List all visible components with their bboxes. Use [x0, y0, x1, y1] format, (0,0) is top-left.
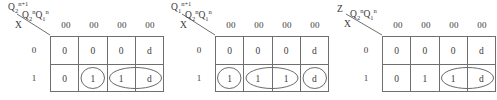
column-header-1: 00 — [80, 18, 108, 32]
kmap-cell-value: 1 — [256, 74, 261, 84]
row-header-1: 1 — [354, 64, 378, 92]
kmap-cell-value: 1 — [91, 74, 96, 84]
kmap-cell-value: 0 — [423, 46, 428, 56]
kmap-cell-r0c1: 0 — [79, 37, 107, 64]
kmap-cell-r1c0: 0 — [51, 65, 79, 92]
kmap-cell-value: d — [147, 74, 152, 84]
column-header-0: 00 — [384, 18, 412, 32]
kmap-cell-r0c0: 0 — [383, 37, 411, 64]
kmap-cell-value: 0 — [62, 46, 67, 56]
kmap-cell-r1c1: 1 — [244, 65, 272, 92]
column-header-3: 00 — [136, 18, 164, 32]
kmap-cell-value: 1 — [227, 74, 232, 84]
kmap-cell-r0c2: 0 — [273, 37, 301, 64]
kmap-cell-r0c3: d — [136, 37, 163, 64]
table-row: 000d — [51, 37, 163, 65]
table-row: 000d — [383, 37, 495, 65]
map-q1-next: Q1n+1Q2nQ1nX0000000001000d111d — [165, 0, 330, 100]
column-header-0: 00 — [52, 18, 80, 32]
kmap-state-vars: Q2nQ1n — [22, 11, 49, 21]
kmap-cell-value: d — [312, 46, 317, 56]
kmap-cell-r0c2: 0 — [440, 37, 468, 64]
row-header-0: 0 — [187, 36, 211, 64]
column-header-3: 00 — [301, 18, 329, 32]
karnaugh-map-figure: Q2n+1Q2nQ1nX0000000001000d011dQ1n+1Q2nQ1… — [0, 0, 497, 100]
row-header-column: 01 — [187, 36, 211, 92]
column-header-1: 00 — [245, 18, 273, 32]
kmap-cell-r0c3: d — [468, 37, 495, 64]
row-header-column: 01 — [22, 36, 46, 92]
table-row: 000d — [216, 37, 328, 65]
kmap-cell-r0c3: d — [301, 37, 328, 64]
kmap-grid: 000d011d — [50, 36, 164, 92]
row-header-1: 1 — [22, 64, 46, 92]
kmap-cell-value: 0 — [62, 74, 67, 84]
kmap-cell-r0c0: 0 — [51, 37, 79, 64]
kmap-cell-r1c1: 1 — [411, 65, 439, 92]
row-header-0: 0 — [354, 36, 378, 64]
kmap-cell-value: 1 — [423, 74, 428, 84]
state-vars-label: Q2nQ1n — [185, 10, 212, 20]
kmap-cell-value: d — [479, 74, 484, 84]
column-header-2: 00 — [273, 18, 301, 32]
kmap-input-var-label: X — [180, 21, 187, 31]
row-header-0: 0 — [22, 36, 46, 64]
table-row: 011d — [51, 65, 163, 92]
kmap-cell-value: 0 — [394, 74, 399, 84]
row-header-column: 01 — [354, 36, 378, 92]
kmap-cell-r1c0: 0 — [383, 65, 411, 92]
table-row: 011d — [383, 65, 495, 92]
kmap-cell-value: 0 — [119, 46, 124, 56]
kmap-cell-r0c2: 0 — [108, 37, 136, 64]
kmap-cell-r1c2: 1 — [108, 65, 136, 92]
kmap-cell-r0c1: 0 — [411, 37, 439, 64]
table-row: 111d — [216, 65, 328, 92]
kmap-grid: 000d011d — [382, 36, 496, 92]
column-header-2: 00 — [108, 18, 136, 32]
kmap-cell-r1c2: 1 — [440, 65, 468, 92]
kmap-cell-value: 0 — [284, 46, 289, 56]
kmap-cell-r0c1: 0 — [244, 37, 272, 64]
kmap-cell-value: d — [147, 46, 152, 56]
column-header-row: 00000000 — [217, 18, 329, 32]
kmap-cell-value: 1 — [284, 74, 289, 84]
kmap-cell-value: 1 — [119, 74, 124, 84]
kmap-cell-value: 0 — [227, 46, 232, 56]
column-header-1: 00 — [412, 18, 440, 32]
kmap-cell-r1c0: 1 — [216, 65, 244, 92]
column-header-3: 00 — [468, 18, 496, 32]
column-header-2: 00 — [440, 18, 468, 32]
kmap-cell-value: 1 — [451, 74, 456, 84]
kmap-input-var-label: X — [15, 21, 22, 31]
kmap-cell-value: 0 — [256, 46, 261, 56]
state-vars-label: Q2nQ1n — [22, 10, 49, 20]
state-vars-label: Q2nQ1n — [350, 9, 377, 19]
kmap-cell-value: 0 — [394, 46, 399, 56]
row-header-1: 1 — [187, 64, 211, 92]
kmap-cell-r1c3: d — [301, 65, 328, 92]
map-q2-next: Q2n+1Q2nQ1nX0000000001000d011d — [0, 0, 165, 100]
kmap-grid: 000d111d — [215, 36, 329, 92]
kmap-cell-r1c3: d — [468, 65, 495, 92]
kmap-cell-value: 0 — [451, 46, 456, 56]
kmap-cell-value: d — [312, 74, 317, 84]
map-z-output: ZQ2nQ1nX0000000001000d011d — [332, 0, 497, 100]
output-label: Z — [337, 4, 343, 14]
kmap-output-label: Z — [337, 5, 343, 15]
kmap-cell-value: d — [479, 46, 484, 56]
kmap-cell-r1c2: 1 — [273, 65, 301, 92]
kmap-cell-r1c1: 1 — [79, 65, 107, 92]
kmap-cell-r0c0: 0 — [216, 37, 244, 64]
column-header-row: 00000000 — [52, 18, 164, 32]
kmap-state-vars: Q2nQ1n — [185, 11, 212, 21]
kmap-state-vars: Q2nQ1n — [350, 10, 377, 20]
kmap-cell-value: 0 — [91, 46, 96, 56]
column-header-row: 00000000 — [384, 18, 496, 32]
column-header-0: 00 — [217, 18, 245, 32]
kmap-input-var-label: X — [344, 20, 351, 30]
kmap-cell-r1c3: d — [136, 65, 163, 92]
